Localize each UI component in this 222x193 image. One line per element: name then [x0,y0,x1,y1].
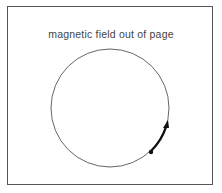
velocity-arrow [151,127,166,151]
arrowhead-icon [163,120,169,128]
circular-orbit-diagram [0,0,222,193]
charged-particle [149,150,153,154]
